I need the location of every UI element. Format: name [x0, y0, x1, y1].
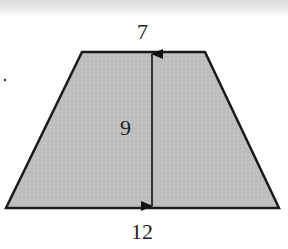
trapezoid-figure: 7 9 12 — [0, 0, 288, 249]
side-marker-dot — [4, 79, 7, 82]
trapezoid-shape — [6, 52, 279, 208]
top-base-label: 7 — [137, 21, 148, 43]
height-label: 9 — [120, 117, 131, 139]
bottom-base-label: 12 — [131, 221, 153, 243]
